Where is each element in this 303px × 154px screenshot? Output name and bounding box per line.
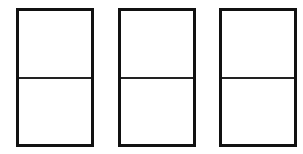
- horizontal-divider: [222, 77, 294, 79]
- rectangle-2: [118, 8, 196, 147]
- rectangle-1: [16, 8, 94, 147]
- rectangle-3: [219, 8, 297, 147]
- horizontal-divider: [19, 77, 91, 79]
- horizontal-divider: [121, 77, 193, 79]
